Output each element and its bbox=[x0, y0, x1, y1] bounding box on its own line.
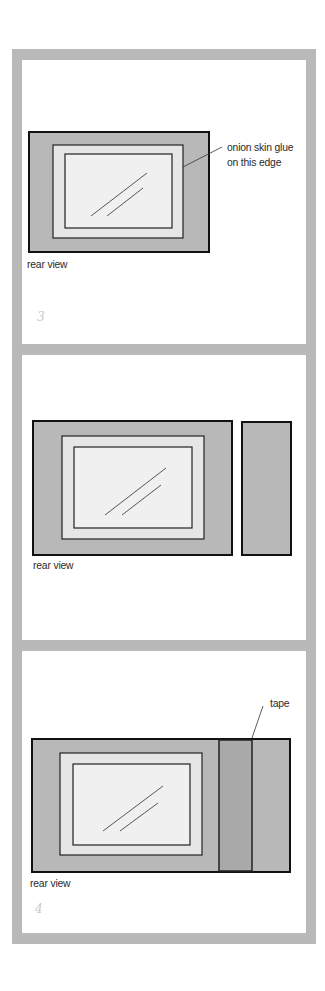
rear-view-label: rear view bbox=[30, 876, 70, 890]
photo-window bbox=[74, 447, 192, 528]
page-frame: onion skin glue on this edge rear view 3… bbox=[12, 49, 316, 944]
leader-line bbox=[252, 706, 263, 738]
panel-step-3: tape rear view 4 bbox=[22, 651, 306, 933]
annotation-line-1: onion skin glue bbox=[227, 140, 293, 154]
side-backing-piece bbox=[242, 422, 291, 555]
rear-view-label: rear view bbox=[33, 558, 73, 572]
tape-label: tape bbox=[270, 696, 289, 710]
tape-strip bbox=[219, 740, 252, 871]
framed-photo-diagram-1 bbox=[22, 60, 306, 344]
rear-view-label: rear view bbox=[27, 257, 67, 271]
photo-window bbox=[65, 154, 172, 228]
panel-step-2: rear view bbox=[22, 355, 306, 640]
framed-photo-diagram-2 bbox=[22, 355, 306, 640]
panel-step-1: onion skin glue on this edge rear view 3 bbox=[22, 60, 306, 344]
page-number: 3 bbox=[37, 310, 45, 324]
page-number: 4 bbox=[35, 902, 43, 916]
photo-window bbox=[73, 764, 190, 845]
annotation-line-2: on this edge bbox=[227, 155, 281, 169]
framed-photo-diagram-3 bbox=[22, 651, 306, 933]
